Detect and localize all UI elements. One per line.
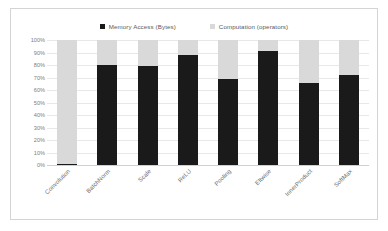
x-axis-label: ReLU	[177, 168, 192, 183]
plot-wrapper: 0%10%20%30%40%50%60%70%80%90%100% Convol…	[11, 9, 377, 219]
x-axis-label-slot: InnerProduct	[299, 166, 319, 218]
bar-column[interactable]	[178, 40, 198, 165]
x-axis-label: Pooling	[213, 168, 232, 187]
x-axis-label-slot: BatchNorm	[97, 166, 117, 218]
chart-frame: Memory Access (Bytes) Computation (opera…	[10, 8, 378, 220]
bar-segment-computation[interactable]	[97, 40, 117, 65]
bar-segment-memory-access[interactable]	[258, 51, 278, 165]
x-axis-label-slot: SoftMax	[339, 166, 359, 218]
y-axis-tick: 40%	[34, 112, 45, 118]
x-axis-label-slot: ReLU	[178, 166, 198, 218]
y-axis-tick: 0%	[37, 162, 45, 168]
bar-segment-computation[interactable]	[258, 40, 278, 51]
y-axis-tick: 100%	[31, 37, 45, 43]
bar-column[interactable]	[299, 40, 319, 165]
x-axis: ConvolutionBatchNormScaleReLUPoolingEltw…	[47, 166, 369, 218]
bar-segment-memory-access[interactable]	[97, 65, 117, 165]
x-axis-label: SoftMax	[333, 168, 353, 188]
y-axis-tick: 60%	[34, 87, 45, 93]
bar-column[interactable]	[218, 40, 238, 165]
x-axis-label: BatchNorm	[86, 168, 112, 194]
x-axis-label: Eltwise	[254, 168, 272, 186]
bar-segment-memory-access[interactable]	[339, 75, 359, 165]
bar-column[interactable]	[57, 40, 77, 165]
x-axis-label: Convolution	[44, 168, 71, 195]
bar-column[interactable]	[339, 40, 359, 165]
x-axis-label: InnerProduct	[283, 168, 312, 197]
y-axis-tick: 70%	[34, 75, 45, 81]
bar-column[interactable]	[97, 40, 117, 165]
bar-segment-memory-access[interactable]	[299, 83, 319, 166]
bar-segment-computation[interactable]	[339, 40, 359, 75]
x-axis-label: Scale	[137, 168, 152, 183]
x-axis-label-slot: Eltwise	[258, 166, 278, 218]
y-axis-tick: 90%	[34, 50, 45, 56]
y-axis: 0%10%20%30%40%50%60%70%80%90%100%	[19, 40, 45, 165]
bar-segment-memory-access[interactable]	[178, 55, 198, 165]
bar-column[interactable]	[258, 40, 278, 165]
y-axis-tick: 50%	[34, 100, 45, 106]
y-axis-tick: 30%	[34, 125, 45, 131]
y-axis-tick: 10%	[34, 150, 45, 156]
bar-segment-computation[interactable]	[178, 40, 198, 55]
x-axis-label-slot: Convolution	[57, 166, 77, 218]
bar-segment-computation[interactable]	[299, 40, 319, 83]
y-axis-tick: 80%	[34, 62, 45, 68]
bar-segment-computation[interactable]	[57, 40, 77, 164]
x-axis-label-slot: Scale	[138, 166, 158, 218]
plot-area	[47, 40, 369, 165]
bar-column[interactable]	[138, 40, 158, 165]
bar-segment-memory-access[interactable]	[218, 79, 238, 165]
bar-group	[47, 40, 369, 165]
bar-segment-computation[interactable]	[138, 40, 158, 66]
x-axis-label-slot: Pooling	[218, 166, 238, 218]
bar-segment-computation[interactable]	[218, 40, 238, 79]
bar-segment-memory-access[interactable]	[138, 66, 158, 165]
y-axis-tick: 20%	[34, 137, 45, 143]
bar-segment-memory-access[interactable]	[57, 164, 77, 165]
